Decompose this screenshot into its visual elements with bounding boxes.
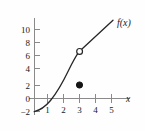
y-tick-label-2: 2 [26, 81, 31, 91]
x-tick-labels: 1 2 3 4 5 [45, 105, 114, 115]
x-axis-label: x [125, 94, 131, 104]
y-tick-labels: 10 8 6 4 2 0 −2 [20, 25, 30, 117]
function-curve-right-branch [81, 20, 113, 50]
open-circle-marker-discontinuity [77, 49, 83, 55]
x-tick-label-5: 5 [109, 105, 114, 115]
y-tick-label-neg2: −2 [20, 107, 30, 117]
y-tick-label-0: 0 [26, 94, 31, 104]
filled-circle-marker-function-value [76, 82, 82, 88]
function-label-fx: f(x) [117, 17, 132, 29]
x-tick-label-3: 3 [77, 105, 82, 115]
function-curve-left-branch [34, 52, 79, 111]
y-tick-marks [35, 30, 41, 112]
y-tick-label-6: 6 [26, 51, 31, 61]
x-tick-label-1: 1 [45, 105, 50, 115]
plot-canvas: 10 8 6 4 2 0 −2 1 2 3 4 5 f(x) x [0, 0, 145, 131]
y-tick-label-4: 4 [26, 64, 31, 74]
x-tick-label-4: 4 [93, 105, 98, 115]
y-tick-label-8: 8 [26, 38, 31, 48]
function-graph-figure: 10 8 6 4 2 0 −2 1 2 3 4 5 f(x) x [0, 0, 145, 131]
y-tick-label-10: 10 [21, 25, 31, 35]
x-tick-label-2: 2 [61, 105, 66, 115]
